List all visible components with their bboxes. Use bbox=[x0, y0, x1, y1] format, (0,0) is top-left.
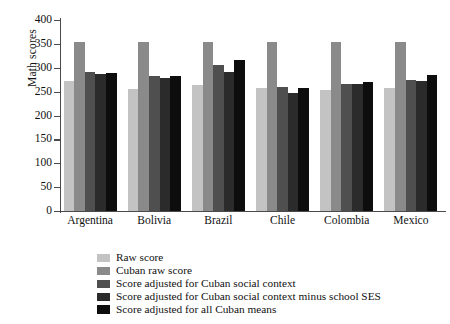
y-tick-label: 50 bbox=[41, 181, 53, 193]
y-tick-label: 400 bbox=[35, 14, 52, 26]
x-axis-line bbox=[60, 211, 446, 212]
bar-group bbox=[384, 20, 437, 211]
x-axis-category-label: Mexico bbox=[370, 214, 450, 226]
bar bbox=[85, 72, 96, 211]
y-tick-label: 100 bbox=[35, 157, 52, 169]
legend-swatch bbox=[97, 280, 110, 289]
bar bbox=[224, 72, 235, 211]
bar bbox=[320, 90, 331, 211]
legend-label: Score adjusted for all Cuban means bbox=[116, 304, 276, 316]
bar bbox=[416, 81, 427, 211]
legend-item: Score adjusted for all Cuban means bbox=[97, 304, 442, 316]
bar-group bbox=[192, 20, 245, 211]
bar bbox=[341, 84, 352, 211]
bar bbox=[277, 87, 288, 211]
bar bbox=[95, 74, 106, 211]
legend-label: Raw score bbox=[116, 252, 163, 264]
legend-item: Score adjusted for Cuban social context … bbox=[97, 291, 442, 303]
legend-item: Raw score bbox=[97, 252, 442, 264]
bar bbox=[395, 42, 406, 211]
y-tick-label: 350 bbox=[35, 38, 52, 50]
chart-page: Math scores 050100150200250300350400 Arg… bbox=[0, 0, 450, 324]
bar bbox=[406, 80, 417, 211]
y-tick-label: 150 bbox=[35, 133, 52, 145]
legend-item: Score adjusted for Cuban social context bbox=[97, 278, 442, 290]
legend-swatch bbox=[97, 305, 110, 314]
y-tick-label: 250 bbox=[35, 86, 52, 98]
bar bbox=[192, 85, 203, 211]
bar bbox=[203, 42, 214, 211]
bar bbox=[128, 89, 139, 211]
y-axis-tick-labels: 050100150200250300350400 bbox=[0, 20, 52, 211]
bar bbox=[213, 65, 224, 211]
y-tick-label: 200 bbox=[35, 110, 52, 122]
bar bbox=[138, 42, 149, 211]
legend-swatch bbox=[97, 293, 110, 302]
bar bbox=[352, 84, 363, 211]
bar bbox=[234, 60, 245, 211]
bar bbox=[427, 75, 438, 211]
plot-area: ArgentinaBoliviaBrazilChileColombiaMexic… bbox=[60, 20, 445, 211]
legend-label: Cuban raw score bbox=[116, 265, 192, 277]
bar-group bbox=[128, 20, 181, 211]
bar bbox=[64, 81, 75, 211]
legend-label: Score adjusted for Cuban social context bbox=[116, 278, 296, 290]
bar bbox=[331, 42, 342, 211]
bar bbox=[170, 76, 181, 211]
bar-group bbox=[64, 20, 117, 211]
bar-group bbox=[320, 20, 373, 211]
bar bbox=[160, 78, 171, 211]
legend-label: Score adjusted for Cuban social context … bbox=[116, 291, 381, 303]
legend-swatch bbox=[97, 267, 110, 276]
y-tick-label: 300 bbox=[35, 62, 52, 74]
bar bbox=[149, 76, 160, 211]
legend: Raw scoreCuban raw scoreScore adjusted f… bbox=[97, 252, 442, 317]
bar-group bbox=[256, 20, 309, 211]
bar bbox=[288, 93, 299, 211]
legend-item: Cuban raw score bbox=[97, 265, 442, 277]
bar bbox=[298, 88, 309, 211]
legend-swatch bbox=[97, 254, 110, 263]
bar bbox=[384, 88, 395, 211]
bar bbox=[256, 88, 267, 211]
bar bbox=[106, 73, 117, 211]
bar bbox=[267, 42, 278, 211]
bar-groups: ArgentinaBoliviaBrazilChileColombiaMexic… bbox=[60, 20, 445, 211]
bar bbox=[363, 82, 374, 211]
bar bbox=[74, 42, 85, 211]
